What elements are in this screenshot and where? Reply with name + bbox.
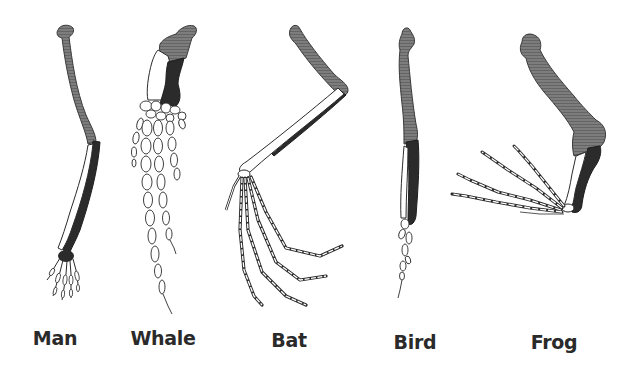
man-humerus <box>57 25 96 144</box>
bird-humerus <box>399 28 417 144</box>
frog-limb <box>452 34 606 214</box>
man-arm <box>47 25 100 300</box>
frog-humerus <box>520 34 605 156</box>
label-frog: Frog <box>531 331 578 353</box>
man-carpals <box>58 250 74 262</box>
bird-radius <box>401 146 408 218</box>
whale-digits <box>132 117 187 314</box>
whale-carpals <box>140 101 186 122</box>
bat-humerus <box>289 25 348 95</box>
label-bird: Bird <box>394 331 437 353</box>
bat-digits <box>240 177 342 305</box>
limb-drawings <box>0 0 630 371</box>
label-bat: Bat <box>271 329 307 351</box>
homologous-limbs-figure: Man Whale Bat Bird Frog <box>0 0 630 371</box>
bat-radius <box>239 88 344 172</box>
bat-wing <box>226 25 348 305</box>
label-whale: Whale <box>130 327 195 349</box>
man-digits <box>47 258 80 300</box>
frog-digits <box>452 146 564 214</box>
bird-wing <box>397 28 418 298</box>
bird-digits <box>397 219 412 298</box>
label-man: Man <box>33 327 77 349</box>
whale-flipper <box>132 25 197 314</box>
